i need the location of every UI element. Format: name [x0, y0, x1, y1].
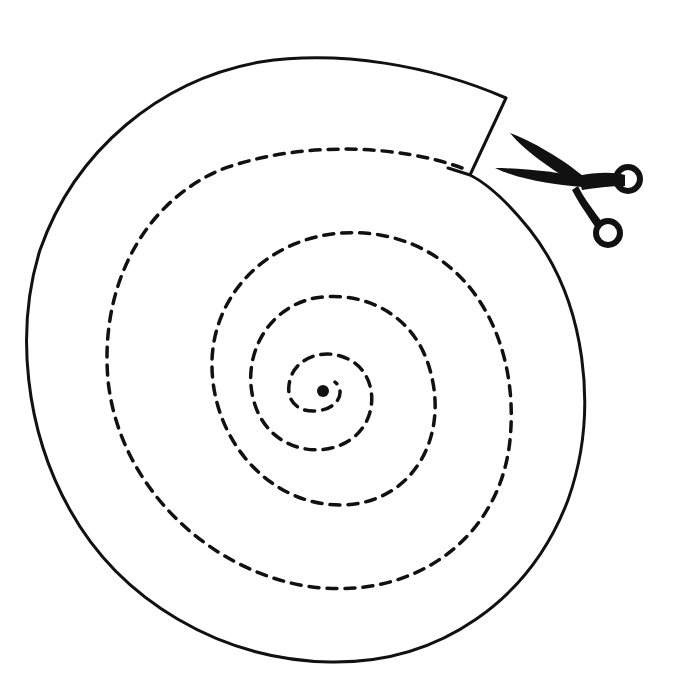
spiral-drawing	[0, 0, 689, 697]
spiral-template	[0, 0, 689, 697]
center-dot	[317, 385, 329, 397]
scissors-icon	[495, 133, 640, 245]
dashed-spiral-cut-line	[107, 149, 511, 589]
